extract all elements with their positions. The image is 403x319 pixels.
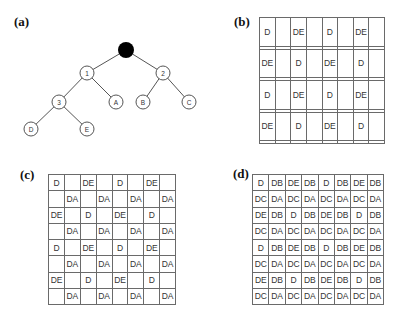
grid-cell: D	[322, 81, 338, 110]
grid-row: DEDBDDBDEDBDDB	[253, 272, 384, 288]
grid-cell	[275, 112, 291, 141]
grid-cell: DC	[318, 288, 334, 304]
grid-cell	[96, 240, 112, 256]
grid-cell: DA	[160, 288, 176, 304]
grid-cell	[49, 256, 65, 272]
grid-cell: DE	[322, 49, 338, 78]
grid-cell	[64, 175, 80, 191]
grid-cell	[275, 49, 291, 78]
grid-row: DEDDED	[260, 112, 385, 141]
grid-cell	[338, 141, 354, 144]
grid-cell	[369, 49, 385, 78]
grid-cell: DC	[318, 191, 334, 207]
grid-cell	[306, 49, 322, 78]
svg-text:C: C	[187, 99, 192, 106]
grid-cell: DE	[318, 207, 334, 223]
grid-cell	[144, 191, 160, 207]
grid-cell: DA	[302, 223, 318, 239]
grid-cell: DC	[351, 256, 367, 272]
grid-cell	[144, 223, 160, 239]
grid-cell: DA	[269, 288, 285, 304]
grid-cell	[112, 191, 128, 207]
grid-cell	[64, 272, 80, 288]
tree-node-3: 3	[52, 95, 66, 109]
grid-cell: DA	[302, 191, 318, 207]
grid-cell: DA	[96, 191, 112, 207]
grid-cell: DE	[318, 272, 334, 288]
grid-cell	[306, 81, 322, 110]
grid-cell: D	[291, 112, 307, 141]
grid-cell: DA	[334, 288, 350, 304]
tree-diagram: 123ABCDE	[0, 0, 220, 150]
grid-row: DCDADCDADCDADCDA	[253, 223, 384, 239]
grid-cell: DA	[64, 191, 80, 207]
grid-cell: D	[49, 175, 65, 191]
grid-cell: DC	[318, 256, 334, 272]
grid-panel-d: DDBDEDBDDBDEDBDCDADCDADCDADCDADEDBDDBDED…	[252, 174, 384, 305]
grid-cell: DC	[253, 223, 269, 239]
grid-cell	[128, 207, 144, 223]
grid-cell: D	[253, 175, 269, 191]
grid-cell: DE	[322, 112, 338, 141]
grid-row	[260, 141, 385, 144]
grid-cell	[96, 272, 112, 288]
grid-cell	[112, 288, 128, 304]
grid-cell: DE	[112, 272, 128, 288]
svg-text:E: E	[85, 126, 90, 133]
svg-text:A: A	[114, 99, 119, 106]
grid-row: DEDDED	[260, 49, 385, 78]
grid-cell: DE	[80, 175, 96, 191]
grid-cell: DC	[318, 223, 334, 239]
grid-cell	[112, 256, 128, 272]
grid-cell	[260, 141, 276, 144]
grid-cell: DA	[96, 223, 112, 239]
grid-cell: DC	[351, 223, 367, 239]
tree-node-1: 1	[80, 66, 94, 80]
grid-cell	[144, 288, 160, 304]
grid-cell: DE	[351, 240, 367, 256]
grid-cell: DC	[285, 256, 301, 272]
grid-cell: D	[351, 272, 367, 288]
grid-cell: DA	[160, 256, 176, 272]
grid-row: DDEDDE	[260, 81, 385, 110]
grid-cell: DA	[128, 288, 144, 304]
grid-cell: DC	[253, 191, 269, 207]
grid-cell: DE	[285, 175, 301, 191]
panel-label-b: (b)	[234, 15, 250, 28]
grid-row: DEDDED	[49, 207, 176, 223]
grid-row: DDEDDE	[260, 18, 385, 47]
svg-text:D: D	[29, 126, 34, 133]
grid-cell: DA	[367, 223, 383, 239]
grid-cell	[306, 141, 322, 144]
grid-cell: D	[285, 272, 301, 288]
grid-cell: DE	[144, 175, 160, 191]
tree-root-node	[118, 42, 134, 58]
tree-node-c: C	[182, 95, 196, 109]
grid-row: DEDBDDBDEDBDDB	[253, 207, 384, 223]
grid-cell: DB	[269, 272, 285, 288]
grid-cell: DE	[351, 175, 367, 191]
grid-cell: DB	[302, 272, 318, 288]
grid-cell: DA	[160, 191, 176, 207]
grid-row: DDBDEDBDDBDEDB	[253, 175, 384, 191]
grid-cell: DE	[353, 18, 369, 47]
grid-cell: DA	[96, 288, 112, 304]
tree-node-e: E	[80, 122, 94, 136]
grid-row: DDEDDE	[49, 240, 176, 256]
grid-row: DADADADA	[49, 191, 176, 207]
grid-cell: D	[144, 207, 160, 223]
grid-cell: DA	[128, 256, 144, 272]
grid-cell: DB	[367, 240, 383, 256]
grid-row: DDEDDE	[49, 175, 176, 191]
grid-cell: D	[322, 18, 338, 47]
grid-cell	[96, 207, 112, 223]
grid-cell: DB	[269, 207, 285, 223]
grid-cell: DA	[128, 223, 144, 239]
grid-cell: DB	[302, 207, 318, 223]
grid-row: DADADADA	[49, 223, 176, 239]
grid-cell: DE	[80, 240, 96, 256]
svg-text:1: 1	[85, 70, 89, 77]
grid-cell	[369, 112, 385, 141]
grid-cell	[49, 191, 65, 207]
grid-cell	[160, 272, 176, 288]
